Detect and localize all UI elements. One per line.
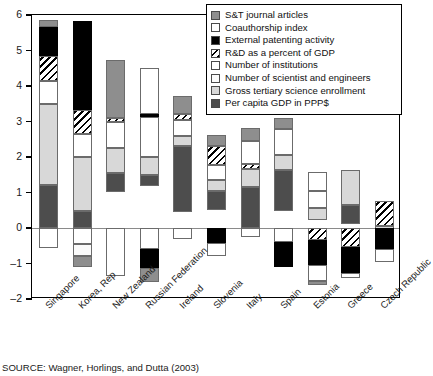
legend-item-number-of-institutions[interactable]: Number of institutions (211, 59, 396, 72)
legend-label: R&D as a percent of GDP (225, 47, 335, 60)
segment-per-capita-gdp (241, 187, 260, 228)
segment-rd-percent-gdp (73, 110, 92, 134)
y-tick-label: –1 (0, 257, 22, 269)
segment-neg-number-of-institutions (140, 228, 159, 249)
y-tick-mark (26, 156, 32, 158)
segment-number-of-institutions (73, 134, 92, 157)
segment-rd-percent-gdp (207, 146, 226, 165)
segment-neg-st-journal-articles (73, 256, 92, 267)
segment-number-of-institutions (207, 165, 226, 180)
legend-item-per-capita-gdp[interactable]: Per capita GDP in PPP$ (211, 97, 396, 110)
chart-legend: S&T journal articlesCoauthorship indexEx… (206, 4, 402, 115)
segment-st-journal-articles (274, 118, 293, 129)
bar-russian-federation[interactable] (140, 15, 159, 299)
segment-coauthorship-index (241, 141, 260, 164)
legend-item-external-patenting[interactable]: External patenting activity (211, 34, 396, 47)
segment-neg-number-of-institutions (375, 249, 394, 262)
legend-swatch-black-icon (211, 36, 220, 45)
segment-neg-st-journal-articles (308, 281, 327, 285)
y-tick-label: 4 (0, 79, 22, 91)
y-tick-mark (26, 121, 32, 123)
legend-label: Coauthorship index (225, 22, 308, 35)
legend-swatch-white-icon (211, 61, 220, 70)
y-tick-label: 0 (0, 221, 22, 233)
y-tick-label: –2 (0, 292, 22, 304)
y-tick-mark (26, 192, 32, 194)
segment-per-capita-gdp (341, 205, 360, 225)
segment-tertiary-enrollment (140, 157, 159, 175)
segment-external-patenting (73, 21, 92, 110)
legend-swatch-white-icon (211, 23, 220, 32)
segment-neg-external-patenting (274, 242, 293, 267)
segment-per-capita-gdp (207, 191, 226, 210)
segment-neg-number-of-institutions (241, 228, 260, 237)
segment-neg-external-patenting (341, 247, 360, 273)
bar-new-zealand[interactable] (106, 15, 125, 299)
bar-korea-rep[interactable] (73, 15, 92, 299)
segment-tertiary-enrollment (39, 104, 58, 185)
segment-rd-percent-gdp (39, 56, 58, 82)
legend-label: S&T journal articles (225, 9, 308, 22)
legend-item-rd-percent-gdp[interactable]: R&D as a percent of GDP (211, 47, 396, 60)
y-tick-label: 3 (0, 115, 22, 127)
legend-swatch-dark-gray-icon (211, 99, 220, 108)
segment-number-of-institutions (173, 120, 192, 136)
segment-tertiary-enrollment (73, 157, 92, 211)
segment-per-capita-gdp (173, 146, 192, 212)
segment-coauthorship-index (308, 172, 327, 190)
segment-st-journal-articles (207, 135, 226, 146)
y-tick-label: 1 (0, 186, 22, 198)
segment-tertiary-enrollment (274, 155, 293, 170)
segment-per-capita-gdp (73, 211, 92, 228)
segment-neg-number-of-institutions (274, 228, 293, 242)
segment-number-of-institutions (140, 117, 159, 157)
segment-neg-external-patenting (308, 240, 327, 265)
segment-tertiary-enrollment (241, 169, 260, 187)
segment-st-journal-articles (173, 96, 192, 114)
y-tick-mark (26, 14, 32, 16)
segment-tertiary-enrollment (207, 180, 226, 191)
segment-neg-rd-percent-gdp (308, 228, 327, 240)
y-tick-mark (26, 85, 32, 87)
segment-neg-number-of-institutions (308, 265, 327, 280)
legend-swatch-medium-gray-icon (211, 11, 220, 20)
segment-neg-rd-percent-gdp (341, 228, 360, 247)
segment-neg-external-patenting (207, 228, 226, 243)
segment-neg-number-of-institutions (341, 273, 360, 278)
y-tick-label: 6 (0, 8, 22, 20)
segment-st-journal-articles (241, 128, 260, 141)
legend-label: Number of institutions (225, 59, 318, 72)
segment-tertiary-enrollment (341, 170, 360, 204)
segment-neg-external-patenting (375, 228, 394, 249)
legend-item-coauthorship-index[interactable]: Coauthorship index (211, 22, 396, 35)
segment-st-journal-articles (39, 20, 58, 28)
segment-tertiary-enrollment (308, 208, 327, 219)
segment-per-capita-gdp (106, 173, 125, 193)
segment-neg-number-of-institutions (73, 228, 92, 244)
segment-external-patenting (39, 27, 58, 55)
legend-item-st-journal-articles[interactable]: S&T journal articles (211, 9, 396, 22)
legend-item-tertiary-enrollment[interactable]: Gross tertiary science enrollment (211, 85, 396, 98)
y-tick-mark (26, 227, 32, 229)
bar-singapore[interactable] (39, 15, 58, 299)
legend-swatch-light-gray-icon (211, 86, 220, 95)
segment-rd-percent-gdp (375, 201, 394, 226)
segment-neg-number-of-institutions (39, 228, 58, 248)
legend-label: Per capita GDP in PPP$ (225, 97, 329, 110)
legend-label: External patenting activity (225, 34, 334, 47)
legend-label: Gross tertiary science enrollment (225, 85, 365, 98)
y-tick-label: 2 (0, 150, 22, 162)
segment-number-of-institutions (106, 122, 125, 148)
segment-neg-number-of-scientists (73, 244, 92, 256)
segment-tertiary-enrollment (106, 148, 125, 173)
segment-st-journal-articles (106, 60, 125, 118)
segment-neg-number-of-institutions (207, 243, 226, 256)
legend-label: Number of scientist and engineers (225, 72, 371, 85)
legend-item-number-of-scientists[interactable]: Number of scientist and engineers (211, 72, 396, 85)
segment-per-capita-gdp (39, 185, 58, 228)
segment-neg-number-of-institutions (173, 228, 192, 239)
y-tick-mark (26, 298, 32, 300)
y-tick-mark (26, 263, 32, 265)
legend-swatch-diagonal-hatch-icon (211, 49, 220, 58)
